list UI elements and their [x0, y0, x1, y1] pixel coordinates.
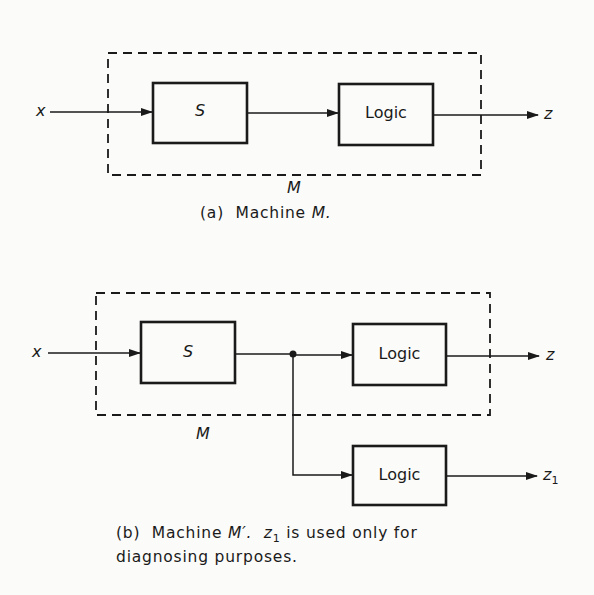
- caption-z: z: [264, 524, 273, 542]
- machine-label: M: [287, 180, 301, 196]
- caption-line-2: diagnosing purposes.: [116, 548, 418, 567]
- logic-box-label: Logic: [339, 105, 433, 121]
- caption-text: Machine: [152, 524, 222, 542]
- diagnostic-logic-box-label: Logic: [353, 467, 446, 483]
- diagram-canvas: [0, 0, 594, 595]
- input-label-x: x: [36, 103, 45, 119]
- state-box-label: S: [141, 344, 235, 360]
- caption-z-sub: 1: [273, 532, 281, 545]
- output-label-z: z: [546, 347, 554, 363]
- diagram-b: [48, 293, 539, 505]
- output-label-z: z: [544, 106, 552, 122]
- caption-prefix: (b): [116, 524, 140, 542]
- logic-box-label: Logic: [353, 346, 446, 362]
- machine-label: M: [196, 426, 210, 442]
- caption-line-1: (b) Machine M′. z1 is used only for: [116, 524, 418, 548]
- caption-b: (b) Machine M′. z1 is used only for diag…: [116, 524, 418, 567]
- caption-prefix: (a): [200, 204, 224, 222]
- output-label-z1: z1: [543, 467, 558, 486]
- caption-machine: M.: [312, 204, 332, 222]
- caption-machine: M′.: [228, 524, 252, 542]
- z1-subscript: 1: [551, 474, 558, 487]
- caption-a: (a) Machine M.: [200, 204, 332, 223]
- diagram-a: [50, 53, 538, 175]
- caption-rest: is used only for: [286, 524, 417, 542]
- caption-text: Machine: [235, 204, 305, 222]
- input-label-x: x: [32, 344, 41, 360]
- state-box-label: S: [153, 103, 247, 119]
